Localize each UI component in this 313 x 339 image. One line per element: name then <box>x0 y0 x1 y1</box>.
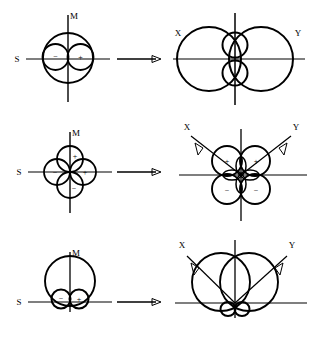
axis-label-m: M <box>70 11 78 21</box>
axis-label-s: S <box>16 297 21 307</box>
sign-bottom: − <box>72 184 77 193</box>
sign-left: − <box>53 168 58 177</box>
sign-upper-right: + <box>254 157 259 166</box>
row-pi-right-panel: X Y <box>165 226 313 339</box>
sign-upper-left: + <box>225 157 230 166</box>
row-pi-arrow <box>113 226 165 339</box>
axis-label-s: S <box>16 167 21 177</box>
axis-label-s: S <box>14 54 19 64</box>
axis-label-x: X <box>179 240 186 250</box>
axis-label-y: Y <box>295 28 302 38</box>
sign-positive: + <box>77 295 82 304</box>
axis-label-x: X <box>175 28 182 38</box>
sign-negative: − <box>59 294 64 303</box>
sign-lower-right: − <box>254 186 259 195</box>
row-sigma-arrow <box>113 0 165 113</box>
diagram-row-sigma: S M − + X <box>0 0 313 113</box>
sign-positive: + <box>78 53 83 62</box>
diagram-row-pi: S M − + <box>0 226 313 339</box>
axis-label-y: Y <box>289 240 296 250</box>
axis-label-x: X <box>184 122 191 132</box>
row-delta-arrow <box>113 113 165 226</box>
axis-label-m: M <box>72 248 80 258</box>
axis-label-y: Y <box>293 122 300 132</box>
sign-top: + <box>73 152 78 161</box>
diagonal-axis-y <box>241 136 291 175</box>
sign-right: + <box>83 168 88 177</box>
sign-negative: − <box>53 52 58 61</box>
orbital-transformation-figure: S M − + X <box>0 0 313 339</box>
row-sigma-right-panel: X Y <box>165 0 313 113</box>
axis-label-m: M <box>72 128 80 138</box>
sign-lower-left: − <box>225 186 230 195</box>
diagonal-axis-x <box>191 136 241 175</box>
row-delta-right-panel: X Y + + − − <box>165 113 313 226</box>
diagram-row-delta: S M + + − − <box>0 113 313 226</box>
